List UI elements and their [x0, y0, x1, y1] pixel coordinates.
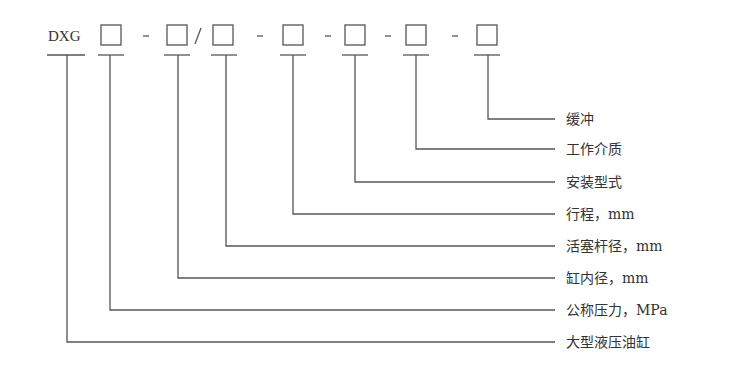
label-stroke: 行程，mm	[566, 206, 635, 222]
leader-3	[226, 55, 555, 246]
field-box-4	[283, 25, 303, 45]
leader-4	[293, 55, 555, 214]
label-rod-diameter: 活塞杆径，mm	[566, 238, 663, 254]
label-mounting-type: 安装型式	[566, 174, 622, 190]
field-box-6	[406, 25, 426, 45]
field-box-1	[101, 25, 121, 45]
prefix-code: DXG	[48, 28, 81, 45]
leader-7	[488, 55, 555, 119]
leader-6	[416, 55, 555, 149]
field-box-2	[167, 25, 187, 45]
field-box-3	[213, 25, 233, 45]
label-nominal-pressure: 公称压力，MPa	[566, 302, 667, 318]
field-box-7	[477, 25, 497, 45]
label-bore-diameter: 缸内径，mm	[566, 270, 649, 286]
label-working-medium: 工作介质	[566, 141, 622, 157]
model-code-diagram	[0, 0, 739, 381]
label-buffer: 缓冲	[566, 111, 594, 127]
label-large-hydraulic-cylinder: 大型液压油缸	[566, 334, 650, 350]
leader-prefix	[67, 55, 555, 342]
leader-2	[178, 55, 555, 278]
field-box-5	[345, 25, 365, 45]
